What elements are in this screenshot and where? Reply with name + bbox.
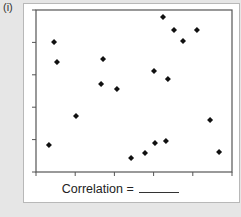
data-point: [73, 113, 79, 119]
data-point: [194, 27, 200, 33]
data-point: [100, 56, 106, 62]
data-point: [54, 59, 60, 65]
data-point: [152, 140, 158, 146]
data-point: [98, 81, 104, 87]
data-point: [142, 150, 148, 156]
correlation-answer-blank[interactable]: [139, 182, 179, 193]
data-point: [163, 138, 169, 144]
data-point: [128, 155, 134, 161]
correlation-label: Correlation =: [62, 182, 134, 196]
data-point: [165, 76, 171, 82]
data-point: [207, 117, 213, 123]
data-point: [46, 142, 52, 148]
data-point: [160, 14, 166, 20]
data-point: [114, 86, 120, 92]
correlation-caption: Correlation =: [0, 182, 241, 196]
data-point: [51, 39, 57, 45]
data-point: [180, 38, 186, 44]
data-point: [171, 27, 177, 33]
plot-frame: [36, 10, 232, 172]
data-point: [216, 149, 222, 155]
data-point: [151, 68, 157, 74]
